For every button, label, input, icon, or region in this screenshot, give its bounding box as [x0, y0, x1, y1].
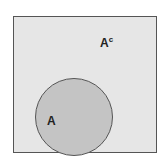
- set-a-label: A: [47, 114, 56, 128]
- venn-diagram: Ac A: [0, 0, 167, 164]
